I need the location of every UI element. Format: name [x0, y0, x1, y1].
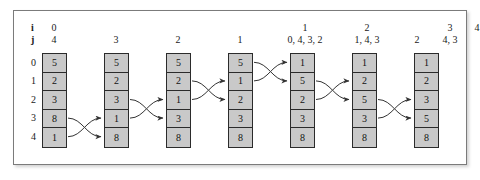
array-cell: 1	[167, 91, 190, 110]
array-column: 52138	[166, 53, 191, 148]
header-i-value: 2	[327, 22, 407, 33]
row-index-label: 2	[22, 94, 36, 105]
array-column: 12538	[352, 53, 377, 148]
array-cell: 2	[229, 91, 252, 110]
header-i-value: 4	[437, 22, 480, 33]
array-cell: 3	[353, 110, 376, 129]
array-cell: 5	[105, 54, 128, 73]
array-cell: 5	[291, 73, 314, 92]
array-cell: 2	[291, 91, 314, 110]
figure-canvas: i j 0432110, 4, 3, 221, 4, 3234, 34 0123…	[0, 0, 480, 180]
array-cell: 2	[43, 73, 66, 92]
array-cell: 8	[229, 128, 252, 147]
array-cell: 2	[167, 73, 190, 92]
array-column: 52318	[104, 53, 129, 148]
array-cell: 8	[43, 110, 66, 129]
header-i-value: 0	[14, 22, 94, 33]
array-cell: 1	[105, 110, 128, 129]
array-cell: 1	[291, 54, 314, 73]
row-index-label: 4	[22, 131, 36, 142]
header-j-value: 4, 3	[410, 34, 480, 45]
array-cell: 1	[43, 128, 66, 147]
array-cell: 5	[229, 54, 252, 73]
row-index-label: 0	[22, 57, 36, 68]
array-cell: 8	[105, 128, 128, 147]
array-cell: 3	[105, 91, 128, 110]
array-cell: 3	[415, 91, 438, 110]
array-cell: 8	[291, 128, 314, 147]
array-cell: 8	[167, 128, 190, 147]
array-cell: 2	[415, 73, 438, 92]
array-cell: 2	[105, 73, 128, 92]
array-cell: 8	[415, 128, 438, 147]
array-cell: 1	[415, 54, 438, 73]
array-column: 52381	[42, 53, 67, 148]
array-cell: 3	[43, 91, 66, 110]
array-cell: 5	[353, 91, 376, 110]
array-cell: 5	[43, 54, 66, 73]
array-cell: 3	[167, 110, 190, 129]
array-cell: 1	[353, 54, 376, 73]
array-cell: 2	[353, 73, 376, 92]
array-column: 12358	[414, 53, 439, 148]
array-column: 51238	[228, 53, 253, 148]
array-cell: 5	[167, 54, 190, 73]
array-cell: 3	[229, 110, 252, 129]
array-cell: 8	[353, 128, 376, 147]
row-index-label: 1	[22, 75, 36, 86]
row-index-label: 3	[22, 112, 36, 123]
array-column: 15238	[290, 53, 315, 148]
array-cell: 1	[229, 73, 252, 92]
array-cell: 5	[415, 110, 438, 129]
array-cell: 3	[291, 110, 314, 129]
